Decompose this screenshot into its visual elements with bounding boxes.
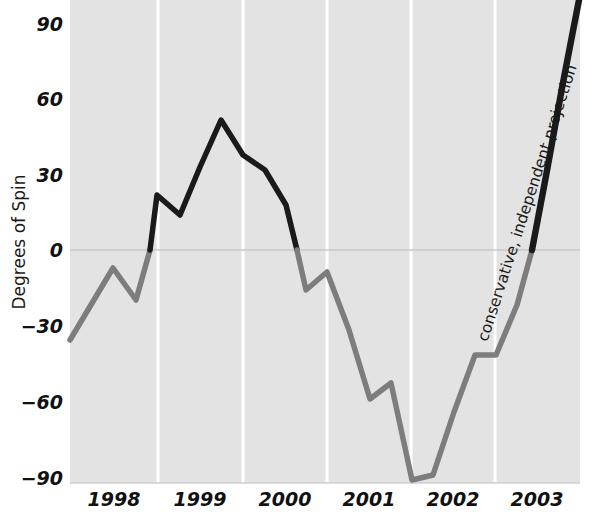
x-tick-2000: 2000 (259, 488, 312, 510)
plot-canvas (0, 0, 594, 517)
plot-background (70, 0, 580, 483)
spin-degrees-line-chart: Degrees of Spin 90 60 30 0 −30 −60 −90 c… (0, 0, 594, 517)
x-tick-2002: 2002 (427, 488, 480, 510)
x-tick-2001: 2001 (343, 488, 396, 510)
x-tick-1998: 1998 (88, 488, 141, 510)
x-tick-2003: 2003 (511, 488, 564, 510)
x-tick-1999: 1999 (174, 488, 227, 510)
